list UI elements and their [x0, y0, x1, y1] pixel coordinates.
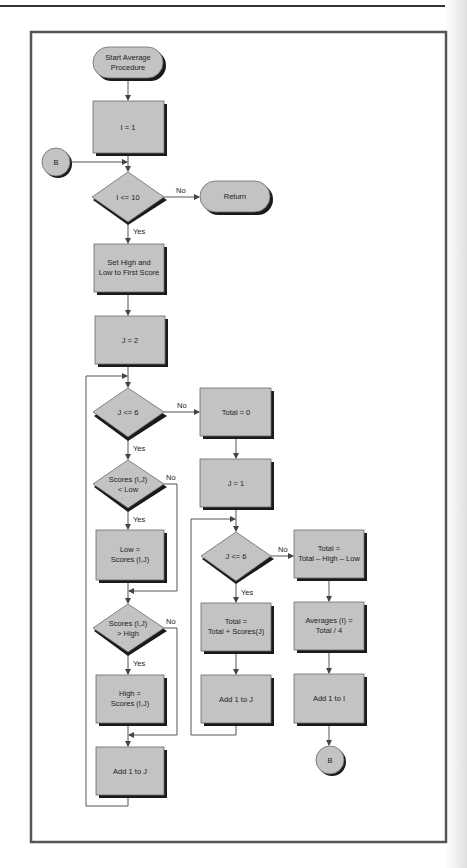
process-add-1-to-j-outer: Add 1 to J — [96, 747, 167, 798]
process-label-line1: Total = — [225, 617, 248, 626]
process-label-line1: Set High and — [107, 258, 150, 267]
return-terminal: Return — [200, 181, 273, 215]
connector-label: B — [327, 756, 332, 765]
process-add-1-to-j-inner: Add 1 to J — [201, 675, 274, 726]
process-j-equals-1: J = 1 — [200, 459, 274, 510]
process-label-line2: Total + Scores(J) — [208, 627, 265, 636]
return-label: Return — [224, 192, 247, 201]
edge-label-no: No — [166, 617, 176, 626]
edge-label-yes: Yes — [133, 227, 145, 236]
decision-i-le-10: I <= 10 — [92, 172, 167, 225]
process-label-line1: Low = — [120, 545, 141, 554]
decision-j-le-6-inner: J <= 6 — [201, 532, 274, 584]
flowchart: No Yes No Yes No Yes No Yes No Yes Start… — [0, 0, 467, 868]
start-label-line2: Procedure — [111, 63, 146, 72]
edge-label-yes: Yes — [133, 444, 145, 453]
process-label-line2: Total / 4 — [316, 626, 342, 635]
connector-b-entry: B — [42, 148, 72, 178]
edge-label-no: No — [176, 186, 186, 195]
process-label-line1: Averages (I) = — [305, 616, 353, 625]
process-label: J = 2 — [122, 336, 138, 345]
process-label-line2: Scores (I,J) — [111, 699, 150, 708]
decision-label-line1: Scores (I,J) — [109, 475, 148, 484]
process-averages: Averages (I) = Total / 4 — [294, 602, 367, 653]
process-label: Total = 0 — [222, 408, 251, 417]
connector-label: B — [53, 158, 58, 167]
process-label: Add 1 to I — [313, 694, 345, 703]
process-label: J = 1 — [228, 479, 244, 488]
decision-label: J <= 6 — [226, 552, 247, 561]
decision-label: J <= 6 — [118, 408, 139, 417]
process-add-1-to-i: Add 1 to I — [294, 674, 367, 726]
decision-label-line2: < Low — [118, 485, 139, 494]
process-total-minus-high-low: Total = Total – High – Low — [294, 530, 367, 581]
edge-label-no: No — [177, 401, 187, 410]
connector-b-exit: B — [316, 746, 346, 776]
edge-label-no: No — [166, 473, 176, 482]
process-set-high: High = Scores (I,J) — [96, 675, 167, 726]
process-label: Add 1 to J — [113, 767, 147, 776]
decision-label-line1: Scores (I,J) — [109, 619, 148, 628]
process-i-equals-1: I = 1 — [93, 101, 167, 156]
process-label: I = 1 — [121, 123, 136, 132]
edge-label-no: No — [278, 545, 288, 554]
edge-label-yes: Yes — [241, 588, 253, 597]
process-j-equals-2: J = 2 — [95, 316, 168, 367]
process-label-line1: High = — [119, 689, 142, 698]
decision-j-le-6-outer: J <= 6 — [93, 388, 167, 441]
decision-score-gt-high: Scores (I,J) > High — [93, 604, 167, 656]
decision-label-line2: > High — [117, 629, 139, 638]
process-label-line2: Total – High – Low — [298, 554, 360, 563]
process-label-line2: Scores (I,J) — [111, 555, 150, 564]
process-total-add-scores: Total = Total + Scores(J) — [201, 603, 274, 654]
process-label-line1: Total = — [318, 544, 341, 553]
process-total-zero: Total = 0 — [200, 388, 274, 439]
process-set-high-low: Set High and Low to First Score — [94, 244, 167, 295]
process-label-line2: Low to First Score — [99, 268, 159, 277]
process-set-low: Low = Scores (I,J) — [96, 530, 167, 583]
start-terminal: Start Average Procedure — [93, 47, 166, 81]
process-label: Add 1 to J — [219, 695, 253, 704]
start-label-line1: Start Average — [105, 53, 150, 62]
edge-label-yes: Yes — [133, 515, 145, 524]
decision-label: I <= 10 — [116, 193, 139, 202]
decision-score-lt-low: Scores (I,J) < Low — [93, 460, 167, 512]
edge-label-yes: Yes — [133, 659, 145, 668]
